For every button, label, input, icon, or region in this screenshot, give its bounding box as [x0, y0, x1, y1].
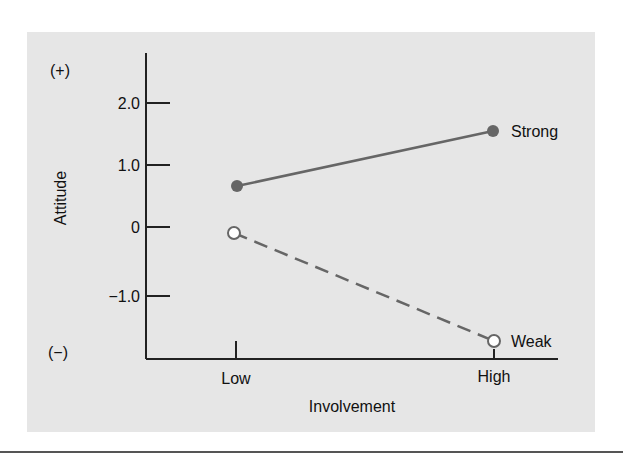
series-strong-label: Strong: [511, 123, 558, 140]
y-axis-title: Attitude: [52, 171, 69, 225]
series-strong-point-low: [231, 180, 243, 192]
y-negative-marker: (−): [48, 344, 68, 361]
series-weak-point-high: [488, 335, 500, 347]
series-weak-point-low: [228, 227, 240, 239]
series-weak-line: [234, 233, 494, 341]
y-tick-label: −1.0: [108, 288, 140, 305]
y-ticks: [146, 103, 170, 296]
y-tick-label: 1.0: [118, 157, 140, 174]
x-tick-label-high: High: [478, 368, 511, 385]
x-tick-label-low: Low: [221, 370, 251, 387]
y-positive-marker: (+): [50, 62, 70, 79]
y-tick-label: 0: [131, 219, 140, 236]
series-strong-point-high: [487, 125, 499, 137]
series-strong-line: [237, 131, 493, 186]
bottom-rule: [0, 451, 623, 453]
y-tick-label: 2.0: [118, 95, 140, 112]
line-chart: 2.0 1.0 0 −1.0 Low High Involvement Atti…: [0, 0, 623, 463]
x-axis-title: Involvement: [309, 398, 396, 415]
series-weak-label: Weak: [511, 333, 553, 350]
